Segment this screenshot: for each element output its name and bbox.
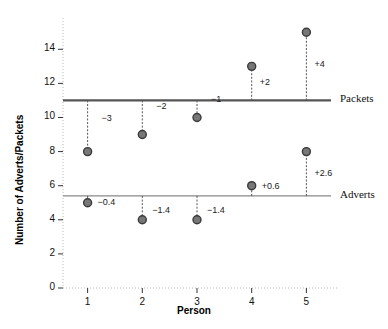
y-tick-label-14: 14 (35, 42, 55, 53)
deviation-label-adverts-3: −1.4 (207, 205, 225, 215)
data-point-adverts-2 (138, 216, 146, 224)
deviation-label-packets-3: −1 (211, 94, 221, 104)
deviation-label-adverts-2: −1.4 (152, 205, 170, 215)
deviation-label-adverts-1: −0.4 (98, 197, 116, 207)
series-label-adverts: Adverts (340, 188, 375, 200)
deviation-label-adverts-4: +0.6 (262, 181, 280, 191)
data-point-packets-5 (302, 28, 310, 36)
deviation-label-adverts-5: +2.6 (314, 168, 332, 178)
y-tick-label-12: 12 (35, 76, 55, 87)
x-tick-label-5: 5 (296, 296, 316, 307)
chart-figure: Number of Adverts/Packets Person 0246810… (0, 0, 388, 329)
x-tick-label-1: 1 (78, 296, 98, 307)
x-tick-label-3: 3 (187, 296, 207, 307)
data-point-packets-4 (248, 62, 256, 70)
data-point-packets-3 (193, 113, 201, 121)
deviation-label-packets-1: −3 (102, 113, 112, 123)
y-tick-label-8: 8 (35, 145, 55, 156)
deviation-label-packets-5: +4 (314, 59, 324, 69)
data-point-packets-2 (138, 131, 146, 139)
y-tick-label-0: 0 (35, 281, 55, 292)
x-tick-label-4: 4 (242, 296, 262, 307)
x-tick-label-2: 2 (132, 296, 152, 307)
series-label-packets: Packets (340, 92, 374, 104)
y-axis-title: Number of Adverts/Packets (14, 115, 25, 245)
y-tick-label-6: 6 (35, 179, 55, 190)
data-point-adverts-5 (302, 148, 310, 156)
y-tick-label-2: 2 (35, 247, 55, 258)
data-point-adverts-4 (248, 182, 256, 190)
data-point-adverts-3 (193, 216, 201, 224)
data-point-adverts-1 (84, 199, 92, 207)
data-point-packets-1 (84, 148, 92, 156)
y-tick-label-10: 10 (35, 110, 55, 121)
deviation-label-packets-2: −2 (156, 101, 166, 111)
deviation-label-packets-4: +2 (260, 77, 270, 87)
plot-canvas (0, 0, 388, 329)
y-tick-label-4: 4 (35, 213, 55, 224)
